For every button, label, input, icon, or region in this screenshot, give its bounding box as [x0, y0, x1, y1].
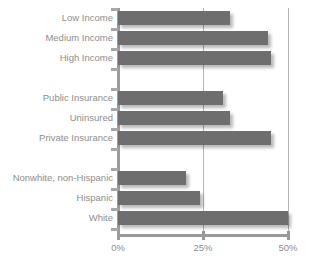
- bar: [118, 211, 288, 225]
- bar-chart: Low IncomeMedium IncomeHigh IncomePublic…: [0, 0, 309, 259]
- bar: [118, 171, 186, 185]
- gridline-50: [288, 8, 289, 235]
- x-axis-tick-label: 50%: [268, 242, 308, 254]
- category-label: Public Insurance: [0, 91, 113, 105]
- x-axis-tick-label: 25%: [183, 242, 223, 254]
- bar: [118, 11, 230, 25]
- bar: [118, 91, 223, 105]
- category-label: White: [0, 211, 113, 225]
- category-label: High Income: [0, 51, 113, 65]
- x-axis-tick: [287, 231, 290, 240]
- x-axis-tick: [202, 231, 205, 240]
- x-axis-tick-label: 0%: [98, 242, 138, 254]
- bar: [118, 191, 200, 205]
- category-label: Private Insurance: [0, 131, 113, 145]
- y-axis-tick: [111, 148, 118, 151]
- category-label: Low Income: [0, 11, 113, 25]
- category-label: Hispanic: [0, 191, 113, 205]
- y-axis-tick: [111, 68, 118, 71]
- bar: [118, 131, 271, 145]
- category-label: Nonwhite, non-Hispanic: [0, 171, 113, 185]
- x-axis-tick: [117, 231, 120, 240]
- bar: [118, 31, 268, 45]
- bar: [118, 111, 230, 125]
- bar: [118, 51, 271, 65]
- category-label: Medium Income: [0, 31, 113, 45]
- category-label: Uninsured: [0, 111, 113, 125]
